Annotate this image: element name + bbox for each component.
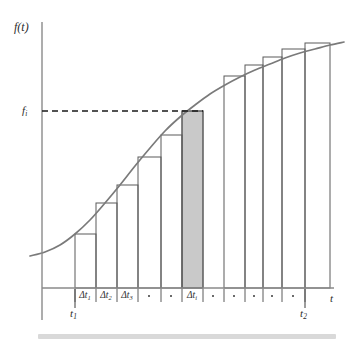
bottom-gray-band <box>38 334 336 339</box>
inscribed-rectangle <box>161 135 182 288</box>
inscribed-rectangle <box>282 49 305 288</box>
shaded-bar-i <box>182 111 203 288</box>
figure-canvas: f(t) t fi t1 t2 Δt1Δt2Δt3Δti <box>0 0 350 351</box>
inscribed-rectangle <box>75 234 96 288</box>
rectangle-group <box>75 43 330 288</box>
inscribed-rectangle <box>263 57 282 288</box>
inscribed-rectangle <box>305 43 330 288</box>
inscribed-rectangle <box>96 203 117 288</box>
shaded-rectangle <box>182 111 203 288</box>
inscribed-rectangle <box>245 65 263 288</box>
inscribed-rectangle <box>138 157 161 288</box>
inscribed-rectangle <box>117 185 138 288</box>
interval-delta-label: Δt3 <box>114 290 140 300</box>
interval-delta-label: Δti <box>179 290 205 300</box>
riemann-sum-diagram <box>0 0 350 351</box>
y-axis-label: f(t) <box>14 20 29 35</box>
x-axis-label: t <box>330 292 333 304</box>
inscribed-rectangle <box>224 76 245 288</box>
t1-axis-label: t1 <box>70 307 77 319</box>
fi-tick-label: fi <box>22 104 27 116</box>
t2-axis-label: t2 <box>300 307 307 319</box>
